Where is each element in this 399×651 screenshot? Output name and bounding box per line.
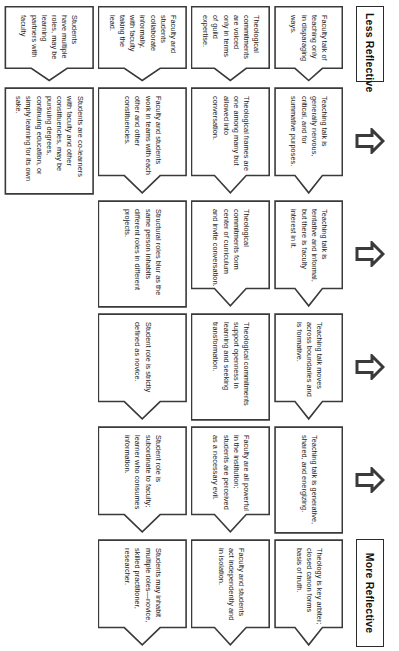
matrix-cell-faculty-5: Structural roles blur as the same person… xyxy=(98,200,188,308)
cell-text: Student role is strictly defined as novi… xyxy=(132,322,152,401)
matrix-cell-teaching-talk-3: Teaching talk is tentative and informal,… xyxy=(274,200,343,308)
matrix-cell-faculty-4: Faculty and students work in teams with … xyxy=(98,87,188,195)
matrix-cell-theological-1: Theology is key arbiter; closed canon fo… xyxy=(274,539,343,647)
up-arrow-icon xyxy=(355,128,385,154)
cell-text: Teaching talk moves across boundaries an… xyxy=(293,322,324,401)
matrix-cell-student-2: Student role is subordinate to faculty; … xyxy=(98,426,188,534)
cell-text: Faculty and students collaborate informa… xyxy=(107,15,179,62)
cell-text: Students have multiple roles, may be lea… xyxy=(18,15,79,62)
cell-text: Theological commitments form center of c… xyxy=(210,209,251,288)
matrix-cell-faculty-3: Faculty and students collaborate informa… xyxy=(98,6,188,82)
less-reflective-label: Less Reflective xyxy=(356,6,384,82)
cell-text: Faculty are all powerful in the institut… xyxy=(210,435,251,514)
cell-text: Faculty and students work in teams with … xyxy=(122,96,163,175)
cell-text: Theological frames are one among many bu… xyxy=(210,96,251,175)
cell-text: Teaching talk is generative, shared, and… xyxy=(298,435,318,525)
more-reflective-label: More Reflective xyxy=(356,539,384,647)
up-arrow-icon xyxy=(355,241,385,267)
cell-text: Theological commitments support openness… xyxy=(210,322,251,412)
scale-label-less-reflective: Less Reflective xyxy=(347,6,393,82)
diagram-canvas: Less Reflective More Reflective xyxy=(0,0,399,651)
up-arrow-icon xyxy=(355,467,385,493)
up-arrow-icon xyxy=(355,354,385,380)
cell-text: Theological commitments are voiced only … xyxy=(200,15,261,62)
scale-label-more-reflective: More Reflective xyxy=(347,539,393,647)
cell-text: Student role is subordinate to faculty; … xyxy=(122,435,163,514)
progression-arrow-4 xyxy=(347,426,393,534)
cell-text: Faculty talk of teaching only in dispara… xyxy=(288,15,329,62)
matrix-cell-student-3: Students may inhabit multiple roles—novi… xyxy=(98,539,188,647)
matrix-cell-theological-2: Theological commitments are voiced only … xyxy=(191,6,270,82)
matrix-cell-student-4: Students have multiple roles, may be lea… xyxy=(4,6,94,82)
matrix-cell-theological-5: Theological commitments support openness… xyxy=(191,313,270,421)
matrix-cell-teaching-talk-5: Teaching talk is generative, shared, and… xyxy=(274,426,343,534)
cell-text: Structural roles blur as the same person… xyxy=(122,209,163,299)
matrix-cell-teaching-talk-4: Teaching talk moves across boundaries an… xyxy=(274,313,343,421)
matrix-cell-theological-3: Theological frames are one among many bu… xyxy=(191,87,270,195)
progression-arrow-3 xyxy=(347,313,393,421)
matrix-cell-teaching-talk-1: Faculty talk of teaching only in dispara… xyxy=(274,6,343,82)
cell-text: Students may inhabit multiple roles—novi… xyxy=(122,548,163,627)
progression-matrix: Less Reflective More Reflective xyxy=(0,0,399,651)
matrix-cell-theological-4: Theological commitments form center of c… xyxy=(191,200,270,308)
progression-arrow-2 xyxy=(347,200,393,308)
matrix-cell-faculty-1: Faculty are all powerful in the institut… xyxy=(191,426,270,534)
cell-text: Faculty and students act independently a… xyxy=(215,548,246,627)
matrix-cell-faculty-2: Faculty and students act independently a… xyxy=(191,539,270,647)
matrix-cell-student-5: Students are co-learners with faculty an… xyxy=(4,87,94,195)
cell-text: Theology is key arbiter; closed canon fo… xyxy=(293,548,324,627)
cell-text: Students are co-learners with faculty an… xyxy=(13,96,85,186)
progression-arrow-1 xyxy=(347,87,393,195)
cell-text: Teaching talk is tentative and informal,… xyxy=(288,209,329,288)
cell-text: Teaching talk is generally nervous, crit… xyxy=(288,96,329,175)
matrix-cell-student-1: Student role is strictly defined as novi… xyxy=(98,313,188,421)
matrix-cell-teaching-talk-2: Teaching talk is generally nervous, crit… xyxy=(274,87,343,195)
